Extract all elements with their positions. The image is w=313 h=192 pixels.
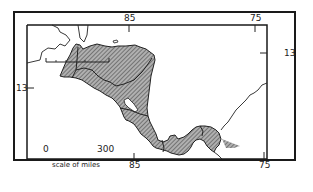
latitude-label-right-13: 13 [284, 49, 295, 58]
scale-start-label: 0 [43, 145, 49, 154]
longitude-label-bottom-85: 85 [129, 161, 140, 170]
gulf-hatch [222, 139, 240, 148]
yucatan-coast-east [84, 25, 88, 42]
island-outline [113, 40, 118, 43]
longitude-label-top-75: 75 [250, 14, 261, 23]
central-america-landmass [60, 44, 221, 155]
longitude-label-bottom-75: 75 [259, 161, 270, 170]
scale-end-label: 300 [97, 145, 114, 154]
latitude-label-left-13: 13 [16, 84, 27, 93]
mexico-coastline [27, 25, 70, 63]
colombia-coastline [221, 83, 267, 130]
longitude-label-top-85: 85 [124, 14, 135, 23]
colombia-pacific-coast [214, 152, 222, 159]
yucatan-coast-west [78, 25, 84, 42]
scale-caption: scale of miles [52, 162, 100, 169]
